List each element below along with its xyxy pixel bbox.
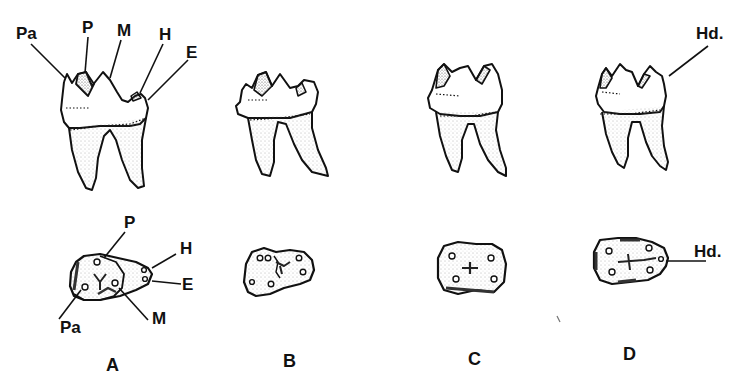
- label-a-occlusal-pa: Pa: [60, 319, 81, 336]
- tooth-a-lateral: [61, 72, 148, 190]
- label-a-lateral-p: P: [82, 19, 93, 36]
- label-d-lateral-hd: Hd.: [696, 25, 723, 42]
- stray-mark: [557, 316, 560, 322]
- label-d-occlusal-hd: Hd.: [694, 243, 721, 260]
- tooth-d-occlusal: [594, 238, 668, 284]
- label-a-lateral-pa: Pa: [16, 25, 37, 42]
- label-a-lateral-h: H: [159, 26, 171, 43]
- tooth-c-lateral: [428, 64, 506, 176]
- panel-label-c: C: [468, 350, 481, 368]
- panel-label-d: D: [623, 345, 636, 363]
- tooth-c-occlusal: [438, 242, 506, 294]
- tooth-drawings: [0, 0, 743, 390]
- tooth-b-lateral: [236, 72, 328, 176]
- label-a-occlusal-p: P: [124, 214, 135, 231]
- tooth-d-lateral: [596, 64, 668, 170]
- tooth-b-occlusal: [244, 248, 314, 296]
- label-a-occlusal-e: E: [182, 276, 193, 293]
- panel-label-a: A: [106, 356, 119, 374]
- label-a-occlusal-m: M: [152, 310, 166, 327]
- tooth-a-occlusal: [70, 254, 152, 300]
- tooth-d-lateral-leader: [669, 46, 708, 76]
- tooth-diagram: Pa P M H E Hd. P H E Pa M Hd. A B C D: [0, 0, 743, 390]
- label-a-occlusal-h: H: [180, 240, 192, 257]
- panel-label-b: B: [283, 352, 296, 370]
- label-a-lateral-e: E: [186, 44, 197, 61]
- label-a-lateral-m: M: [117, 22, 131, 39]
